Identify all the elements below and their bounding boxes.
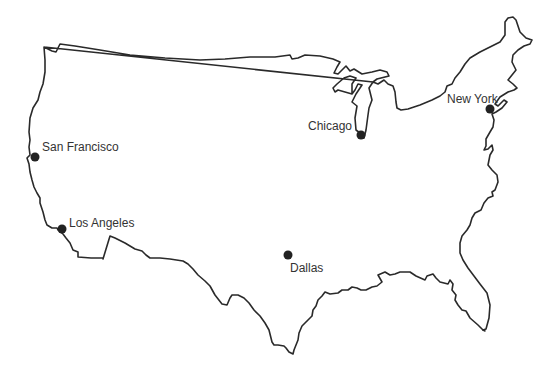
city-marker-los-angeles[interactable] (58, 225, 67, 234)
us-outline (0, 0, 554, 373)
florida-keys-path (483, 330, 485, 331)
us-map: San Francisco Los Angeles Chicago New Yo… (0, 0, 554, 373)
city-label-chicago: Chicago (308, 120, 352, 132)
city-label-san-francisco: San Francisco (42, 141, 119, 153)
city-label-new-york: New York (447, 93, 498, 105)
city-label-dallas: Dallas (290, 262, 323, 274)
city-label-los-angeles: Los Angeles (69, 217, 134, 229)
city-marker-san-francisco[interactable] (31, 153, 40, 162)
us-border-path (27, 17, 532, 354)
city-marker-chicago[interactable] (357, 131, 366, 140)
city-marker-dallas[interactable] (284, 251, 293, 260)
